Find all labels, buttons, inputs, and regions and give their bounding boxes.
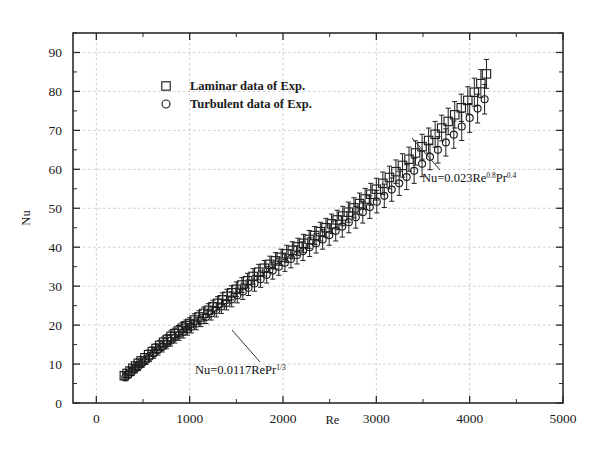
legend-label: Turbulent data of Exp. bbox=[190, 97, 312, 111]
y-tick-label: 10 bbox=[49, 357, 63, 372]
y-tick-label: 60 bbox=[49, 162, 63, 177]
nusselt-vs-reynolds-scatter-plot: 0100020003000400050000102030405060708090… bbox=[0, 0, 602, 468]
x-tick-label: 1000 bbox=[176, 411, 203, 426]
x-axis-title: Re bbox=[326, 413, 340, 427]
annot-base: Nu=0.0117RePr bbox=[195, 363, 277, 377]
x-tick-label: 3000 bbox=[363, 411, 390, 426]
x-tick-label: 0 bbox=[93, 411, 100, 426]
y-tick-label: 20 bbox=[49, 318, 63, 333]
y-tick-label: 50 bbox=[49, 201, 63, 216]
x-tick-label: 5000 bbox=[550, 411, 577, 426]
annotation-turbulent-correlation: Nu=0.023Re0.8Pr0.4 bbox=[422, 171, 516, 186]
annot-superscript: 1/3 bbox=[276, 363, 286, 372]
y-tick-label: 80 bbox=[49, 84, 63, 99]
annot-superscript: 0.4 bbox=[507, 171, 517, 180]
y-tick-label: 70 bbox=[49, 123, 63, 138]
legend-label: Laminar data of Exp. bbox=[190, 79, 305, 93]
chart-figure: 0100020003000400050000102030405060708090… bbox=[0, 0, 602, 468]
annotation-laminar-correlation: Nu=0.0117RePr1/3 bbox=[195, 363, 286, 378]
y-tick-label: 40 bbox=[49, 240, 63, 255]
x-tick-label: 2000 bbox=[270, 411, 297, 426]
annot-base: Nu=0.023Re bbox=[422, 171, 487, 185]
y-tick-label: 30 bbox=[49, 279, 63, 294]
y-axis-title: Nu bbox=[19, 210, 33, 226]
y-tick-label: 90 bbox=[49, 45, 63, 60]
x-tick-label: 4000 bbox=[456, 411, 483, 426]
annot-superscript: 0.8 bbox=[486, 171, 496, 180]
y-tick-label: 0 bbox=[55, 396, 62, 411]
